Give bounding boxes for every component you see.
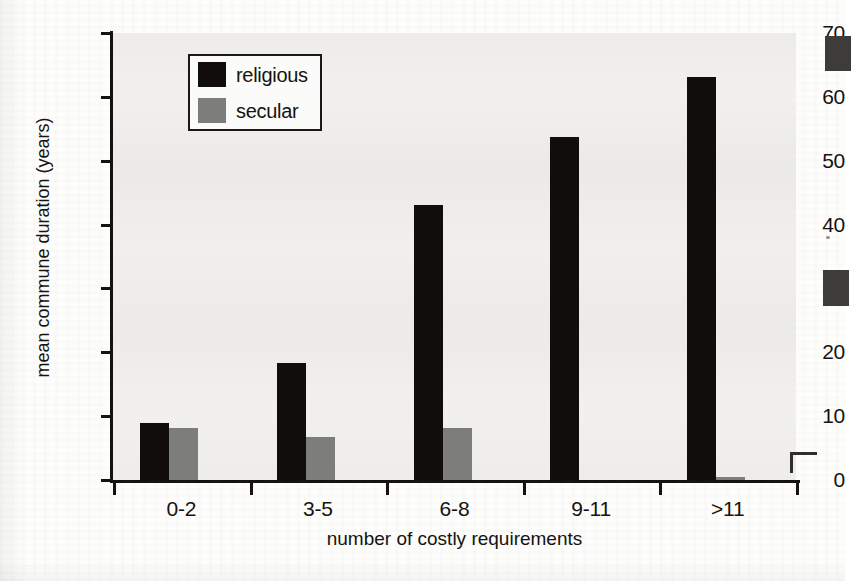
bar-religious-0-2 [140,423,169,480]
religious-swatch-icon [198,62,226,87]
y-tick-label: 10 [787,404,845,428]
y-tick-label: 60 [787,85,845,109]
x-tick-label: 3-5 [303,497,333,521]
y-tick-mark [101,224,111,227]
bar-religious-6-8 [414,205,443,480]
y-tick-mark [101,160,111,163]
x-axis-line [110,480,800,483]
legend-label-religious: religious [236,65,308,85]
x-tick-mark [659,482,662,495]
bar-religious->11 [687,77,716,480]
x-axis-title: number of costly requirements [113,528,796,550]
x-tick-mark [523,482,526,495]
secular-swatch-icon [198,98,226,123]
scan-artifact-block-top [825,36,851,71]
bar-secular-6-8 [443,428,472,480]
y-tick-label: 40 [787,213,845,237]
x-tick-mark [386,482,389,495]
x-tick-label: >11 [711,497,744,521]
page-edge-shadow-left [0,0,26,581]
bar-secular-3-5 [306,437,335,480]
x-tick-label: 6-8 [440,497,470,521]
y-tick-mark [101,287,111,290]
y-tick-mark [101,351,111,354]
bar-religious-3-5 [277,363,306,480]
y-tick-mark [101,96,111,99]
page-edge-shadow-bottom [0,559,845,581]
x-tick-mark [250,482,253,495]
y-axis-title: mean commune duration (years) [33,38,54,458]
x-tick-label: 9-11 [571,497,611,521]
legend-item-secular: secular [198,98,298,123]
y-tick-mark [101,415,111,418]
scan-artifact-corner-rule [790,452,817,473]
bar-religious-9-11 [550,137,579,480]
y-tick-label: 50 [787,149,845,173]
bar-secular-0-2 [169,428,198,480]
y-tick-mark [101,32,111,35]
scan-artifact-speck [826,236,830,239]
y-tick-mark [101,479,111,482]
legend-item-religious: religious [198,62,308,87]
chart-legend: religious secular [188,54,322,131]
scan-artifact-block-bottom [823,270,849,306]
x-tick-label: 0-2 [166,497,196,521]
x-tick-mark [113,482,116,495]
y-tick-label: 20 [787,340,845,364]
legend-label-secular: secular [236,101,298,121]
x-tick-mark [796,482,799,495]
